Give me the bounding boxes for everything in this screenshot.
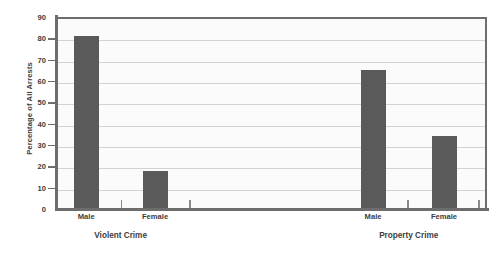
gridline [57,190,485,191]
x-axis-line [55,208,489,211]
x-axis-group-label: Property Crime [379,231,438,240]
y-axis-tick-labels: 0102030405060708090 [24,17,46,209]
y-axis-tick-label: 20 [38,162,46,171]
x-axis-tick-mark [189,200,190,208]
gridline [57,168,485,169]
y-axis-tick-label: 30 [38,141,46,150]
bar [432,136,457,209]
x-axis-tick-label: Male [365,212,382,221]
x-axis-tick-mark [407,200,408,208]
gridline [57,83,485,84]
y-axis-tick-label: 50 [38,98,46,107]
gridline [57,104,485,105]
y-axis-tick-label: 70 [38,55,46,64]
gridline [57,40,485,41]
bar [361,70,386,209]
x-axis-tick-label: Male [78,212,95,221]
x-axis-tick-label: Female [142,212,168,221]
y-axis-line [55,15,58,211]
bar [74,36,99,209]
y-axis-tick-label: 10 [38,183,46,192]
plot-area [57,17,487,209]
gridline [57,126,485,127]
x-axis-tick-mark [121,200,122,208]
gridline [57,62,485,63]
y-axis-tick-label: 80 [38,34,46,43]
x-axis-group-label: Violent Crime [94,231,147,240]
bar [143,171,168,209]
x-axis-tick-mark [478,200,479,208]
y-axis-tick-label: 90 [38,13,46,22]
x-axis-tick-label: Female [431,212,457,221]
gridline [57,147,485,148]
y-axis-tick-label: 40 [38,119,46,128]
y-axis-tick-label: 60 [38,77,46,86]
bar-chart-figure: Percentage of All Arrests 01020304050607… [0,0,499,256]
